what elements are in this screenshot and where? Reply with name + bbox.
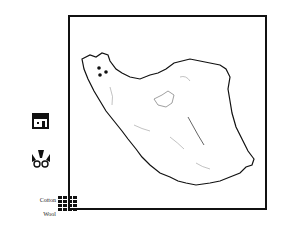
legend-label-wool: Wool: [4, 211, 56, 217]
map-marker: [104, 70, 108, 74]
iran-map: [70, 17, 265, 208]
textile-grid-icon: [58, 196, 78, 211]
legend-label-cotton: Cotton: [4, 197, 56, 203]
loom-icon: [32, 150, 50, 168]
map-frame: [68, 15, 267, 210]
house-icon: [32, 113, 49, 129]
map-marker: [97, 66, 101, 70]
map-marker: [98, 73, 102, 77]
